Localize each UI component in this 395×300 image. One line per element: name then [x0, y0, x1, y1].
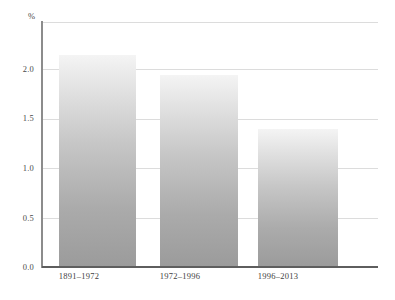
x-axis-line	[42, 266, 378, 268]
y-tick-label-2-0: 2.0	[4, 65, 34, 74]
bar-1996-2013	[258, 129, 338, 267]
y-tick-label-0-0: 0.0	[4, 263, 34, 272]
y-tick-label-1-5: 1.5	[4, 114, 34, 123]
y-tick-label-1-0: 1.0	[4, 164, 34, 173]
bar-chart: % 2.0 1.5 1.0 0.5 0.0 1891–1972 1972–199…	[0, 0, 395, 300]
bar-1972-1996	[160, 75, 238, 267]
y-axis-unit-label: %	[28, 12, 35, 21]
y-tick-label-0-5: 0.5	[4, 214, 34, 223]
y-axis-line	[41, 21, 43, 268]
x-tick-label-1996-2013: 1996–2013	[218, 272, 338, 281]
plot-area	[42, 22, 378, 267]
gridline-top	[42, 22, 378, 23]
bar-1891-1972	[59, 55, 136, 267]
